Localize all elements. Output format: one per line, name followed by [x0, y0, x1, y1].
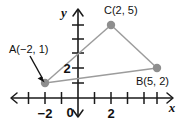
x-tick-label-minus-2: −2 — [38, 106, 53, 121]
x-tick-label-2: 2 — [107, 106, 114, 121]
point-label-a: A(−2, 1) — [9, 43, 48, 55]
y-tick-label-2: 2 — [63, 61, 70, 76]
x-axis-label: x — [168, 100, 176, 115]
leader-line-to-point-a — [30, 56, 43, 79]
vertex-point-c — [107, 21, 115, 29]
origin-label: 0 — [66, 105, 73, 120]
point-label-c: C(2, 5) — [104, 4, 138, 16]
triangle-edge-c-b — [111, 25, 157, 68]
coordinate-plane-svg: y x −2 0 2 2 A(−2, 1) B(5, 2) C(2, 5) — [0, 0, 185, 124]
vertex-point-b — [153, 64, 161, 72]
point-label-b: B(5, 2) — [136, 75, 169, 87]
y-axis-label: y — [59, 5, 67, 20]
coordinate-plane-figure: y x −2 0 2 2 A(−2, 1) B(5, 2) C(2, 5) — [0, 0, 185, 124]
